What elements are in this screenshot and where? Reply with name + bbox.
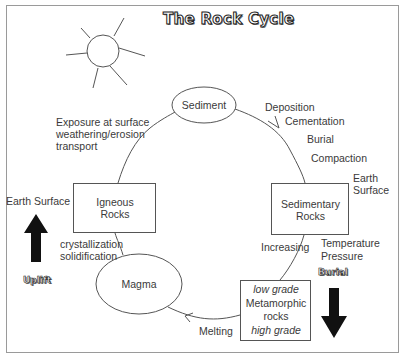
burial-label: Burial bbox=[318, 267, 348, 277]
magma-node-label: Magma bbox=[110, 278, 168, 290]
right-earth-line2: Surface bbox=[353, 184, 389, 196]
igneous-line1: Igneous bbox=[74, 196, 156, 208]
metamorphic-high-grade: high grade bbox=[241, 324, 311, 338]
igneous-node-label: Igneous Rocks bbox=[74, 196, 156, 220]
uplift-arrow-icon bbox=[24, 214, 48, 262]
pressure-label: Pressure bbox=[321, 250, 363, 262]
temperature-label: Temperature bbox=[321, 237, 380, 249]
exposure-line1: Exposure at surface bbox=[56, 116, 149, 128]
igneous-line2: Rocks bbox=[74, 208, 156, 220]
exposure-line3: transport bbox=[56, 140, 149, 152]
metamorphic-line2: Metamorphic bbox=[241, 297, 311, 311]
left-earth-surface-label: Earth Surface bbox=[6, 195, 70, 207]
crystallization-line2: solidification bbox=[60, 250, 123, 262]
metamorphic-node-label: low grade Metamorphic rocks high grade bbox=[241, 283, 311, 337]
melting-label: Melting bbox=[199, 325, 233, 337]
deposition-label: Deposition bbox=[265, 101, 315, 113]
rock-cycle-diagram: The Rock Cycle Sediment Igneous Rocks Se… bbox=[0, 0, 403, 355]
path-metamorphic-to-magma bbox=[168, 307, 240, 319]
right-earth-line1: Earth bbox=[353, 172, 389, 184]
uplift-label: Uplift bbox=[23, 275, 51, 285]
right-earth-surface-label: Earth Surface bbox=[353, 172, 389, 196]
exposure-line2: weathering/erosion bbox=[56, 128, 149, 140]
cementation-label: Cementation bbox=[285, 115, 345, 127]
increasing-label: Increasing bbox=[261, 241, 309, 253]
metamorphic-low-grade: low grade bbox=[241, 283, 311, 297]
compaction-label: Compaction bbox=[311, 152, 367, 164]
crystallization-line1: crystallization bbox=[60, 238, 123, 250]
diagram-frame bbox=[7, 6, 399, 353]
exposure-label: Exposure at surface weathering/erosion t… bbox=[56, 116, 149, 152]
sediment-node-label: Sediment bbox=[176, 99, 232, 111]
burial-step-label: Burial bbox=[307, 133, 334, 145]
sedimentary-line2: Rocks bbox=[272, 210, 349, 222]
crystallization-label: crystallization solidification bbox=[60, 238, 123, 262]
metamorphic-line3: rocks bbox=[241, 310, 311, 324]
sedimentary-line1: Sedimentary bbox=[272, 198, 349, 210]
diagram-title: The Rock Cycle bbox=[163, 10, 294, 28]
sun-icon bbox=[66, 18, 145, 88]
sedimentary-node-label: Sedimentary Rocks bbox=[272, 198, 349, 222]
diagram-graphics bbox=[0, 0, 403, 355]
burial-arrow-icon bbox=[321, 288, 347, 338]
